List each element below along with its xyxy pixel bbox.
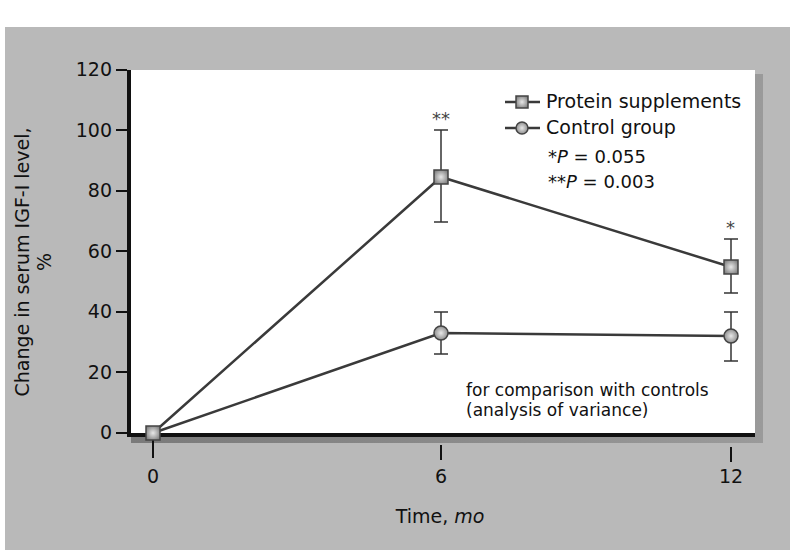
- legend-control-group: Control group: [546, 116, 676, 138]
- legend-protein-supplements: Protein supplements: [546, 90, 741, 112]
- series-control-group: [153, 312, 738, 433]
- significance-star-6mo: **: [432, 108, 450, 129]
- significance-star-12mo: *: [726, 217, 735, 238]
- y-tick-marks: [116, 70, 127, 433]
- p-value-single-star: *P = 0.055: [548, 146, 646, 167]
- chart-svg: [0, 0, 806, 559]
- comparison-note-line2: (analysis of variance): [466, 400, 648, 420]
- legend-markers: [505, 96, 540, 134]
- comparison-note-line1: for comparison with controls: [466, 380, 709, 400]
- x-tick-marks: [153, 437, 731, 462]
- p-value-double-star: **P = 0.003: [548, 171, 655, 192]
